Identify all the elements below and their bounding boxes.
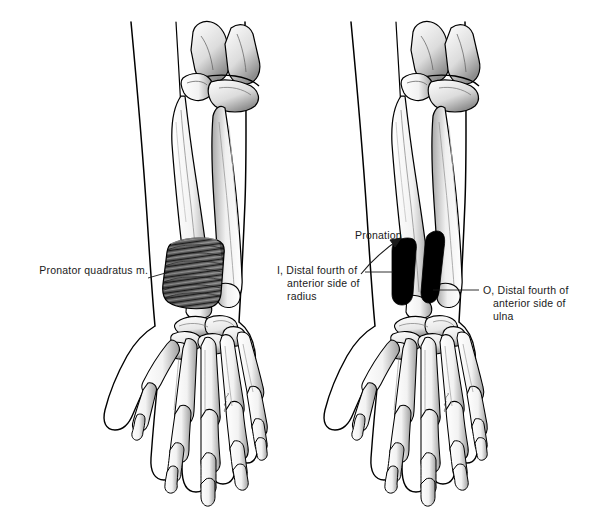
label-origin-ulna: O, Distal fourth of anterior side of uln… (483, 284, 588, 323)
label-pronator-quadratus: Pronator quadratus m. (28, 264, 148, 277)
pronator-quadratus-muscle (163, 238, 225, 309)
anatomy-illustration (0, 0, 596, 507)
label-pronation: Pronation (355, 229, 402, 242)
insertion-area-radius (392, 238, 416, 305)
label-insertion-radius: I, Distal fourth of anterior side of rad… (277, 264, 369, 303)
